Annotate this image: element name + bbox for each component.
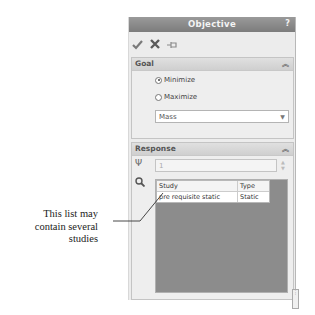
callout-leader-line bbox=[0, 0, 315, 315]
